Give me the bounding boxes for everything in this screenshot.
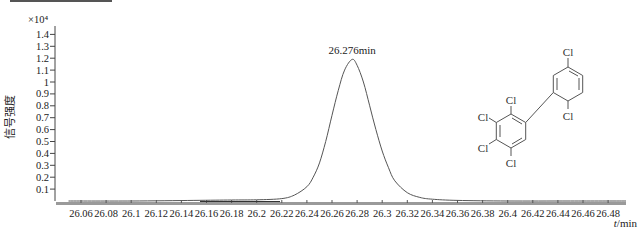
x-tick-label: 26.36	[446, 208, 470, 219]
y-tick-label: 0.1	[36, 184, 49, 195]
y-tick-label: 0.5	[36, 136, 49, 147]
chlorine-label: Cl	[478, 111, 488, 123]
x-tick-label: 26.1	[122, 208, 140, 219]
x-tick-label: 26.2	[248, 208, 266, 219]
chlorine-label: Cl	[563, 110, 573, 122]
double-bond	[512, 118, 522, 124]
x-tick-label: 26.24	[295, 208, 319, 219]
x-tick-label: 26.16	[195, 208, 219, 219]
right-benzene-ring	[553, 67, 582, 101]
x-tick-label: 26.3	[373, 208, 391, 219]
x-tick-label: 26.4	[499, 208, 518, 219]
y-tick-label: 0.9	[36, 88, 49, 99]
peak-annotation: 26.276min	[328, 44, 376, 56]
y-axis-title: 信号强度	[3, 95, 16, 139]
x-tick-label: 26.06	[69, 208, 93, 219]
y-tick-label: 1.3	[36, 41, 49, 52]
x-tick-label: 26.38	[471, 208, 495, 219]
y-tick-label: 0.4	[36, 148, 50, 159]
x-tick-label: 26.08	[94, 208, 118, 219]
y-tick-label: 1	[44, 77, 49, 88]
y-tick-label: 0.7	[36, 112, 49, 123]
y-tick-label: 1.2	[36, 53, 49, 64]
x-tick-label: 26.34	[421, 208, 445, 219]
y-tick-label: 1.1	[36, 65, 49, 76]
chromatogram-chart: ×10⁴ 0.10.20.30.40.50.60.70.80.911.11.21…	[0, 0, 642, 233]
x-tick-label: 26.42	[521, 208, 545, 219]
left-benzene-ring	[496, 114, 525, 148]
x-tick-label: 26.26	[320, 208, 344, 219]
molecule-structure	[489, 58, 583, 156]
y-tick-label: 1.4	[36, 29, 50, 40]
x-tick-label: 26.14	[170, 208, 194, 219]
double-bond	[512, 138, 522, 144]
y-multiplier: ×10⁴	[28, 14, 48, 25]
x-tick-label: 26.32	[395, 208, 419, 219]
x-tick-label: 26.44	[546, 208, 570, 219]
x-axis-title: t/min	[614, 217, 638, 229]
x-tick-label: 26.22	[270, 208, 294, 219]
y-tick-label: 0.2	[36, 172, 49, 183]
bond	[489, 118, 496, 123]
bond	[489, 140, 496, 145]
chlorine-label: Cl	[478, 142, 488, 154]
chlorine-label: Cl	[506, 157, 516, 169]
molecule-labels: Cl Cl Cl Cl Cl Cl	[478, 46, 573, 169]
x-tick-label: 26.46	[571, 208, 595, 219]
y-tick-label: 0.8	[36, 100, 49, 111]
chlorine-label: Cl	[563, 46, 573, 58]
x-tick-label: 26.28	[345, 208, 369, 219]
chlorine-label: Cl	[506, 94, 516, 106]
signal-line	[69, 59, 627, 201]
y-tick-label: 0.6	[36, 124, 49, 135]
x-axis-unit: /min	[617, 217, 638, 229]
y-ticks: 0.10.20.30.40.50.60.70.80.911.11.21.31.4	[36, 29, 55, 195]
biphenyl-bond	[526, 93, 554, 123]
x-tick-label: 26.12	[144, 208, 168, 219]
y-tick-label: 0.3	[36, 160, 49, 171]
x-tick-label: 26.18	[220, 208, 244, 219]
